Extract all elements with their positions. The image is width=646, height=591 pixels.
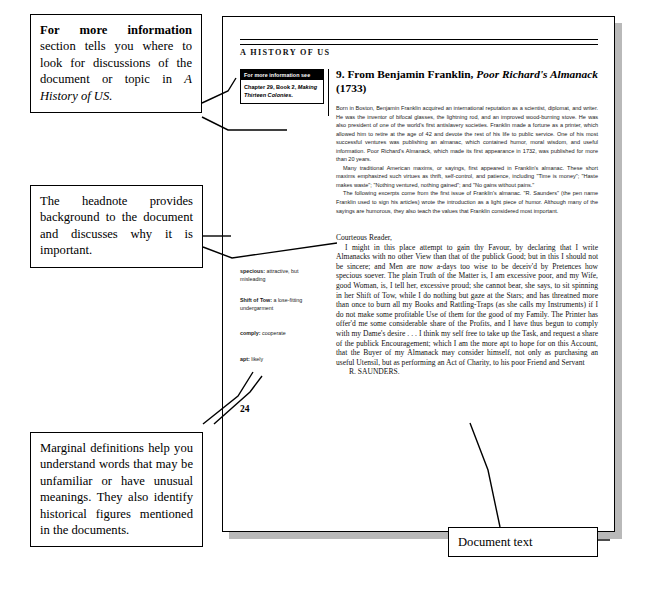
callout-for-more-information: For more information section tells you w… bbox=[30, 14, 202, 113]
callout-headnote: The headnote provides background to the … bbox=[30, 185, 203, 268]
callout-marginal-definitions: Marginal definitions help you understand… bbox=[30, 432, 203, 547]
callout-document-text: Document text bbox=[448, 527, 598, 557]
callout-info-rest: section tells you where to look for disc… bbox=[40, 39, 192, 86]
figure-canvas: For more information section tells you w… bbox=[0, 0, 646, 591]
callout-info-lead: For more information bbox=[40, 23, 192, 37]
